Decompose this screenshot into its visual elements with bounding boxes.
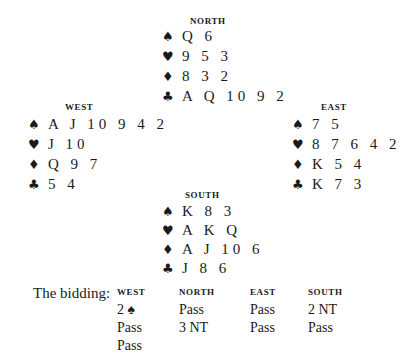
west-hearts: ♥J 10 — [28, 134, 89, 154]
bid-cell: Pass — [179, 301, 215, 319]
east-hearts: ♥8 7 6 4 2 — [292, 134, 401, 154]
bid-cell: Pass — [117, 319, 145, 337]
diamond-icon: ♦ — [28, 155, 48, 175]
club-icon: ♣ — [162, 87, 182, 107]
north-clubs: ♣A Q 10 9 2 — [162, 86, 288, 106]
spade-icon: ♠ — [162, 202, 182, 222]
north-spades: ♠Q 6 — [162, 26, 216, 46]
heart-icon: ♥ — [28, 135, 48, 155]
diamond-icon: ♦ — [292, 155, 312, 175]
bid-column-north: NORTH Pass 3 NT — [179, 287, 215, 337]
hand-label-north: NORTH — [190, 16, 226, 26]
bid-cell: 2 ♠ — [117, 301, 145, 319]
west-diamonds: ♦Q 9 7 — [28, 154, 101, 174]
west-clubs: ♣5 4 — [28, 174, 79, 194]
heart-icon: ♥ — [162, 221, 182, 241]
bid-header-east: EAST — [250, 287, 276, 301]
north-diamonds: ♦8 3 2 — [162, 66, 232, 86]
bid-column-south: SOUTH 2 NT Pass — [308, 287, 343, 337]
heart-icon: ♥ — [162, 47, 182, 67]
south-spades: ♠K 8 3 — [162, 201, 235, 221]
bid-column-west: WEST 2 ♠ Pass Pass — [117, 287, 145, 355]
east-diamonds: ♦K 5 4 — [292, 154, 365, 174]
bid-cell: Pass — [117, 337, 145, 355]
east-clubs: ♣K 7 3 — [292, 174, 365, 194]
spade-icon: ♠ — [292, 115, 312, 135]
hand-label-west: WEST — [65, 102, 93, 112]
bid-cell: 3 NT — [179, 319, 215, 337]
bid-header-west: WEST — [117, 287, 145, 301]
bid-column-east: EAST Pass Pass — [250, 287, 276, 337]
club-icon: ♣ — [28, 175, 48, 195]
south-diamonds: ♦A J 10 6 — [162, 239, 264, 259]
diamond-icon: ♦ — [162, 67, 182, 87]
hand-label-east: EAST — [321, 102, 347, 112]
heart-icon: ♥ — [292, 135, 312, 155]
spade-icon: ♠ — [162, 27, 182, 47]
bid-header-south: SOUTH — [308, 287, 343, 301]
bid-cell: 2 NT — [308, 301, 343, 319]
bid-cell: Pass — [250, 319, 276, 337]
south-hearts: ♥A K Q — [162, 220, 241, 240]
bid-cell: Pass — [250, 301, 276, 319]
south-clubs: ♣J 8 6 — [162, 258, 230, 278]
club-icon: ♣ — [292, 175, 312, 195]
bid-cell: Pass — [308, 319, 343, 337]
spade-icon: ♠ — [28, 115, 48, 135]
north-hearts: ♥9 5 3 — [162, 46, 232, 66]
club-icon: ♣ — [162, 259, 182, 279]
bid-header-north: NORTH — [179, 287, 215, 301]
east-spades: ♠7 5 — [292, 114, 343, 134]
hand-label-south: SOUTH — [185, 190, 220, 200]
bidding-title: The bidding: — [33, 285, 110, 302]
west-spades: ♠A J 10 9 4 2 — [28, 114, 168, 134]
diamond-icon: ♦ — [162, 240, 182, 260]
